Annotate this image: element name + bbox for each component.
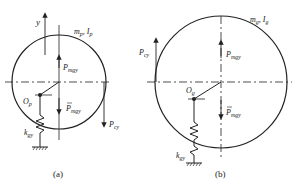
spring-label: kgy [176,151,186,161]
spring [190,99,198,163]
spring [36,95,44,147]
force-up-label: Pmgy [62,63,78,73]
pivot-label: Og [186,86,195,96]
figure-a: y mp, Ip Pmgy Op Pmgy kgy [5,15,120,179]
gear-dynamics-diagram: y mp, Ip Pmgy Op Pmgy kgy [0,0,294,188]
pivot-label: Op [23,97,32,107]
mass-inertia-label: mp, Ip [74,27,92,37]
force-up-label: Pmgy [225,50,241,60]
contact-force-label: Pcy [138,48,150,58]
radius-line [40,82,59,95]
caption-b: (b) [215,169,226,179]
y-axis-label: y [35,17,40,27]
force-down-label: Pmgy [225,108,241,118]
figure-b: mg, Ig Pmgy Pcy Og Pmgy kgy (b) [138,15,292,179]
contact-force-label: Pcy [108,120,120,130]
radius-line [194,82,221,99]
mass-inertia-label: mg, Ig [250,15,268,25]
force-down-label: Pmgy [65,104,81,114]
caption-a: (a) [53,169,63,179]
spring-label: kgy [24,128,34,138]
